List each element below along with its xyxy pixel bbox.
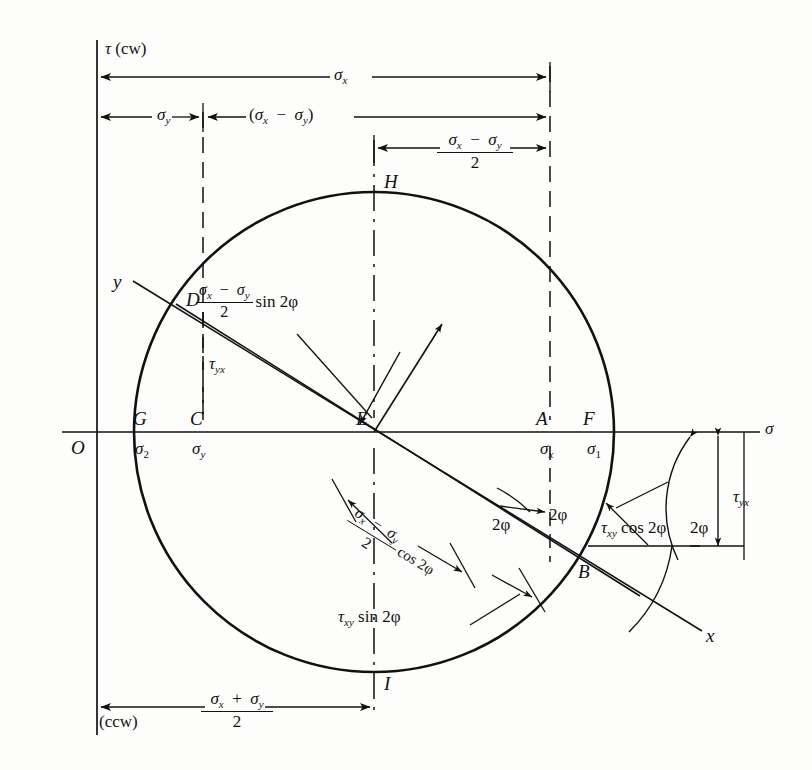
value-tau-yx-left: τyx <box>209 355 225 375</box>
point-label-O: O <box>71 438 85 457</box>
dim-label-half-diff: σx − σy 2 <box>437 131 513 172</box>
tauxy-cos-leader <box>616 482 668 508</box>
tauxy-sin-arrow <box>492 575 532 597</box>
angle-arc-right-inner <box>629 546 672 632</box>
label-two-phi-b: 2φ <box>549 506 567 523</box>
dim-label-sigma-y: σy <box>157 106 170 126</box>
value-sigma-1: σ1 <box>587 440 601 460</box>
mohr-circle-drawing <box>0 0 812 770</box>
tauxy-sin-leader <box>470 594 520 625</box>
label-tauxy-sin: τxy sin 2φ <box>338 608 401 628</box>
sigma-axis-label: σ <box>765 420 773 437</box>
value-tau-yx-right: τyx <box>733 488 749 508</box>
value-sigma-y: σy <box>192 440 205 460</box>
point-label-F: F <box>583 409 595 428</box>
dim-label-sigma-x: σx <box>334 66 347 86</box>
tauxy-sin-tick <box>519 568 545 612</box>
value-sigma-x: σx <box>540 440 553 460</box>
point-label-G: G <box>133 409 147 428</box>
label-sin-term: σx − σy 2 sin 2φ <box>196 282 298 321</box>
y-ray-label: y <box>113 272 121 291</box>
point-label-H: H <box>384 172 398 191</box>
dim-label-sigma-diff: (σx − σy) <box>249 106 314 126</box>
point-label-B: B <box>578 562 590 581</box>
mohr-circle-figure: τ (cw) (ccw) σ σx σy (σx − σy) σx − σy 2… <box>0 0 812 770</box>
value-sigma-2: σ2 <box>135 440 149 460</box>
angle-arc-right-outer <box>666 437 690 560</box>
point-label-E: E <box>356 409 368 428</box>
point-label-A: A <box>536 409 548 428</box>
x-ray-label: x <box>706 626 714 645</box>
dim-label-mean-stress: σx + σy 2 <box>201 690 273 731</box>
tau-axis-label: τ (cw) <box>105 40 147 57</box>
label-tauxy-cos: τxy cos 2φ <box>601 519 666 539</box>
cos-component-tick-b <box>450 543 475 588</box>
resultant-vector <box>374 324 442 432</box>
point-label-C: C <box>190 409 203 428</box>
point-label-I: I <box>384 674 390 693</box>
ccw-label: (ccw) <box>99 713 138 730</box>
label-two-phi-e: 2φ <box>492 516 510 533</box>
label-two-phi-right: 2φ <box>690 519 708 536</box>
